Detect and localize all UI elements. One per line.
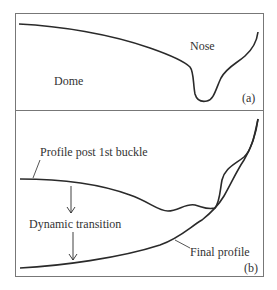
panel-a-tag: (a) <box>242 92 255 104</box>
dynamic-transition-label: Dynamic transition <box>29 218 121 230</box>
profile-post-buckle-label: Profile post 1st buckle <box>40 146 148 158</box>
profile-label-leader <box>33 160 40 178</box>
arrow-down-icon <box>69 232 77 260</box>
panel-b-tag: (b) <box>244 262 258 274</box>
arrow-down-icon <box>67 186 75 213</box>
dome-nose-profile-curve <box>19 24 258 101</box>
final-label-leader <box>175 240 190 248</box>
final-profile-label: Final profile <box>190 246 250 258</box>
dome-label: Dome <box>54 75 83 87</box>
profile-post-buckle-curve <box>20 119 258 211</box>
nose-label: Nose <box>190 40 215 52</box>
